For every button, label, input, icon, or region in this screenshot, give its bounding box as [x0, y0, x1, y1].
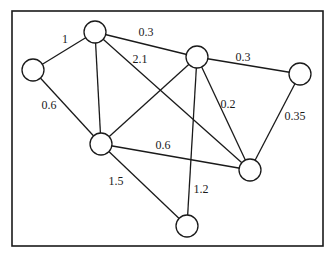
edge-weight-label: 1.2 — [194, 182, 209, 196]
edge-weight-label: 0.3 — [236, 50, 251, 64]
edge-weight-label: 2.1 — [133, 52, 148, 66]
edge-weight-label: 0.3 — [139, 25, 154, 39]
edge-weight-label: 0.6 — [156, 138, 171, 152]
node-b — [84, 21, 106, 43]
edge-weight-label: 1 — [62, 32, 68, 46]
node-layer — [22, 21, 311, 237]
edge-c-f — [197, 57, 250, 170]
edge-weight-label: 1.5 — [109, 174, 124, 188]
node-g — [176, 215, 198, 237]
edge-c-e — [101, 57, 197, 144]
edge-weight-label: 0.6 — [42, 98, 57, 112]
node-e — [90, 133, 112, 155]
edge-weight-label: 0.2 — [221, 97, 236, 111]
diagram-frame — [12, 11, 323, 246]
node-f — [239, 159, 261, 181]
node-a — [22, 59, 44, 81]
weight-label-layer: 10.60.32.10.30.21.20.350.61.5 — [42, 25, 306, 196]
edge-weight-label: 0.35 — [285, 109, 306, 123]
graph-diagram: 10.60.32.10.30.21.20.350.61.5 — [0, 0, 331, 257]
edge-b-e — [95, 32, 101, 144]
edge-layer — [33, 32, 300, 226]
node-d — [289, 63, 311, 85]
edge-c-g — [187, 57, 197, 226]
node-c — [186, 46, 208, 68]
